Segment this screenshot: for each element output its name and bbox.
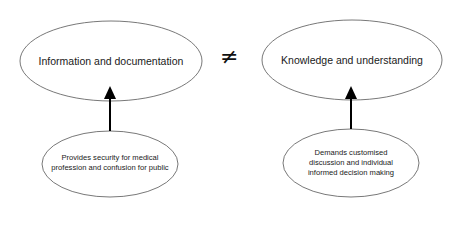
node-info-effect-label: Provides security for medical profession… (50, 150, 170, 176)
node-knowledge-effect-label: Demands customised discussion and indivi… (306, 146, 396, 180)
node-knowledge-label: Knowledge and understanding (264, 49, 440, 71)
not-equal-symbol: ≠ (220, 44, 238, 69)
node-info-label: Information and documentation (22, 50, 200, 72)
